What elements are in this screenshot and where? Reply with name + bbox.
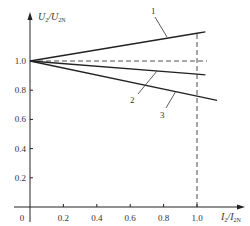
y-tick-label: 0.6 — [15, 114, 27, 124]
leader-3 — [166, 91, 176, 108]
series-line-1 — [30, 32, 205, 61]
reference-lines — [30, 32, 207, 207]
chart-container: 00.20.40.60.81.0 0.20.40.60.81.0 1 2 3 U… — [0, 0, 250, 226]
leader-1 — [155, 17, 167, 37]
curve-label-3: 3 — [160, 110, 165, 120]
y-tick-label: 0.2 — [15, 173, 26, 183]
x-tick-label: 0.6 — [125, 213, 137, 223]
axes — [14, 12, 245, 222]
leader-2 — [138, 71, 157, 94]
x-tick-label: 0.2 — [58, 213, 69, 223]
series-line-3 — [30, 61, 217, 100]
series-line-2 — [30, 61, 205, 75]
y-axis-arrow-icon — [28, 12, 33, 20]
y-tick-label: 1.0 — [15, 56, 27, 66]
series-lines — [30, 32, 217, 101]
curve-leaders — [138, 17, 176, 108]
y-tick-label: 0.8 — [15, 85, 27, 95]
x-axis-label: I2/I2N — [220, 211, 241, 223]
y-axis-label: U2/U2N — [38, 11, 66, 23]
x-tick-label: 0 — [20, 213, 25, 223]
x-axis-arrow-icon — [237, 205, 245, 210]
curve-label-1: 1 — [151, 6, 156, 16]
x-tick-label: 1.0 — [191, 213, 203, 223]
y-tick-label: 0.4 — [15, 144, 27, 154]
curve-label-2: 2 — [130, 95, 135, 105]
x-tick-label: 0.4 — [91, 213, 103, 223]
x-tick-label: 0.8 — [158, 213, 170, 223]
